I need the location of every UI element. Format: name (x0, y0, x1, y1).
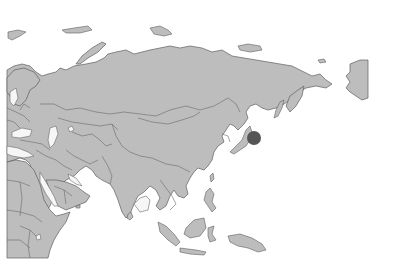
asia-map (0, 0, 393, 279)
markers-layer (247, 131, 261, 145)
location-marker[interactable] (247, 131, 261, 145)
